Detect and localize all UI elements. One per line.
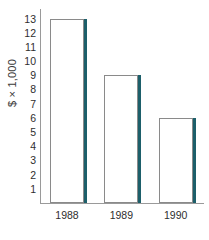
x-axis-tick-labels: 1988 1989 1990 [41, 207, 204, 227]
y-tick-label: 6 [18, 113, 36, 123]
y-tick-label: 4 [18, 141, 36, 151]
x-tick-label-1990: 1990 [153, 207, 199, 223]
y-tick-label: 11 [18, 42, 36, 52]
y-tick-label: 8 [18, 84, 36, 94]
y-tick-label: 9 [18, 70, 36, 80]
bar-1990 [159, 118, 193, 203]
y-tick-label: 10 [18, 56, 36, 66]
y-tick-label: 13 [18, 14, 36, 24]
x-axis-line [40, 203, 204, 204]
y-tick-label: 2 [18, 170, 36, 180]
y-tick-label: 1 [18, 184, 36, 194]
y-tick-label: 7 [18, 99, 36, 109]
bar-1988 [50, 19, 84, 203]
bar-shadow-edge-icon [193, 118, 196, 203]
bar-shadow-edge-icon [138, 75, 141, 203]
bar-chart: $ × 1,000 13 12 11 10 9 8 7 6 5 4 3 2 1 … [0, 0, 209, 240]
y-tick-label: 3 [18, 155, 36, 165]
plot-area [41, 10, 204, 203]
bar-shadow-edge-icon [84, 19, 87, 203]
y-tick-label: 5 [18, 127, 36, 137]
x-tick-label-1989: 1989 [98, 207, 144, 223]
bar-1989 [104, 75, 138, 203]
y-axis-tick-labels: 13 12 11 10 9 8 7 6 5 4 3 2 1 [18, 10, 36, 203]
x-tick-label-1988: 1988 [44, 207, 90, 223]
y-tick-label: 12 [18, 28, 36, 38]
